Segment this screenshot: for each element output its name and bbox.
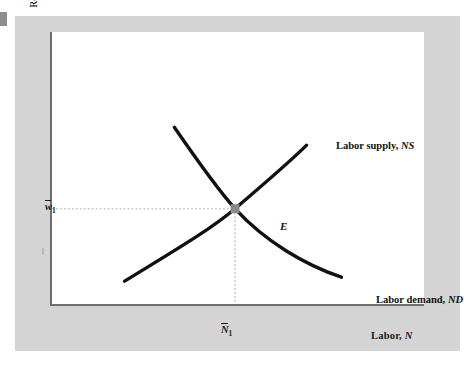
labor-demand-label-symbol: ND: [448, 294, 463, 305]
y-axis-label-inner: Real wage, w: [28, 0, 39, 40]
labor-supply-label: Labor supply, NS: [336, 140, 414, 151]
labor-demand-curve: [174, 127, 341, 277]
x-axis-label-text: Labor,: [371, 330, 405, 341]
wage-tick-overbar-group: w: [45, 201, 52, 212]
labor-tick-overbar-group: N: [221, 324, 229, 335]
labor-demand-label-text: Labor demand,: [376, 294, 448, 305]
wage-tick-subscript: 1: [52, 206, 56, 215]
plot-frame: Labor supply, NS Labor demand, ND E: [50, 32, 424, 306]
labor-tick-symbol: N: [221, 324, 229, 335]
y-axis-label-text: Real wage,: [28, 0, 39, 8]
figure-panel: Real wage, w Labor supply, NS Labor dema…: [15, 16, 460, 351]
equilibrium-marker: [231, 204, 240, 213]
x-axis-label-symbol: N: [405, 330, 413, 341]
page-corner-mark: [0, 12, 7, 26]
labor-tick-subscript: 1: [229, 329, 233, 338]
labor-tick-overbar: [221, 323, 228, 324]
wage-tick-overbar: [45, 200, 51, 201]
labor-supply-label-symbol: NS: [401, 140, 414, 151]
page-speck: [42, 248, 44, 255]
labor-tick-label: N1: [221, 324, 232, 338]
labor-demand-label: Labor demand, ND: [376, 294, 463, 305]
y-axis-label: Real wage, w: [28, 4, 39, 40]
labor-supply-label-text: Labor supply,: [336, 140, 401, 151]
plot-canvas: [52, 32, 424, 304]
equilibrium-label: E: [280, 220, 287, 232]
wage-tick-label: w1: [45, 201, 56, 215]
wage-tick-symbol: w: [45, 201, 52, 212]
labor-supply-curve: [125, 145, 307, 281]
x-axis-label: Labor, N: [371, 330, 413, 341]
